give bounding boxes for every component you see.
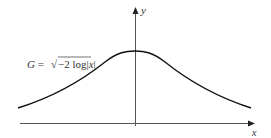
svg-text:G =: G = bbox=[27, 58, 44, 70]
y-axis-label: y bbox=[140, 4, 146, 16]
x-axis-label: x bbox=[251, 127, 257, 138]
svg-text:−2 log|x|: −2 log|x| bbox=[58, 58, 96, 70]
diagram: y x G = √ −2 log|x| bbox=[0, 0, 271, 138]
equation-label: G = √ −2 log|x| bbox=[27, 57, 96, 70]
svg-text:√: √ bbox=[51, 58, 58, 70]
